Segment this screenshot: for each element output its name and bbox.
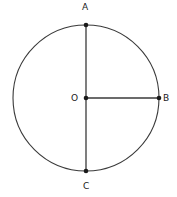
point-label-o: O <box>71 94 78 103</box>
point-label-c: C <box>83 182 89 191</box>
point-marker-a <box>84 23 89 28</box>
circle-diagram-canvas <box>0 0 177 197</box>
point-marker-b <box>157 96 162 101</box>
point-label-a: A <box>82 3 88 12</box>
geometry-figure: A B O C <box>0 0 177 197</box>
point-marker-c <box>84 169 89 174</box>
point-label-b: B <box>163 94 169 103</box>
point-marker-o <box>84 96 89 101</box>
